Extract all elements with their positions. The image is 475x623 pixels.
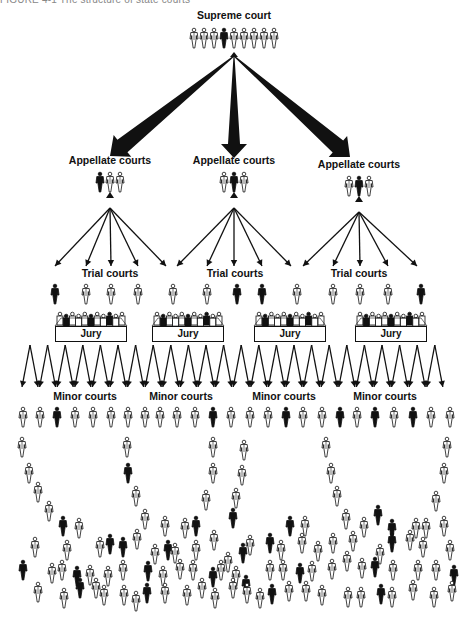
minor-judge-icon [336,407,344,427]
trial-court-label-3: Trial courts [331,267,388,279]
citizen-icon [432,560,440,580]
supreme-justice-icon [250,28,258,48]
minor-judge-icon [227,407,235,427]
citizen-icon [31,537,39,557]
citizen-icon [266,533,274,553]
appellate-court-label-2: Appellate courts [193,154,275,166]
citizen-icon [342,509,350,529]
minor-judge-icon [353,407,361,427]
citizen-icon [151,544,159,564]
trial-judge-icon [233,284,241,304]
citizen-icon [286,516,294,536]
citizen-icon [388,532,396,552]
citizen-icon [92,578,100,598]
citizen-icon [279,560,287,580]
citizen-icon [104,566,112,586]
citizen-icon [344,587,352,607]
trial-judge-icon [384,284,392,304]
citizen-icon [141,509,149,529]
citizen-icon [285,581,293,601]
citizen-icon [143,583,151,603]
jury-crowd-icon [355,312,427,327]
minor-judge-icon [246,407,254,427]
citizen-icon [106,534,114,554]
citizen-icon [443,437,451,457]
minor-judge-icon [124,407,132,427]
citizen-icon [96,537,104,557]
minor-judge-icon [107,407,115,427]
citizen-icon [189,560,197,580]
appellate-judge-icon [96,172,104,192]
diagram-canvas [0,0,475,623]
minor-judge-icon [209,407,217,427]
trial-judge-icon [293,284,301,304]
supreme-justice-icon [240,28,248,48]
minor-judge-icon [282,407,290,427]
citizen-icon [119,560,127,580]
minor-court-label-1: Minor courts [53,390,117,402]
citizen-icon [371,557,379,577]
citizen-icon [181,518,189,538]
trial-judge-icon [258,284,266,304]
trial-court-label-2: Trial courts [207,267,264,279]
citizen-icon [124,463,132,483]
citizen-icon [192,540,200,560]
trial-judge-icon [134,284,142,304]
citizen-icon [432,491,440,511]
citizen-icon [327,463,335,483]
jury-box-3: Jury [254,326,326,342]
citizen-icon [374,505,382,525]
trial-judge-icon [169,284,177,304]
jury-box-2: Jury [152,326,224,342]
minor-judge-icon [141,407,149,427]
citizen-icon [302,581,310,601]
minor-judge-icon [409,407,417,427]
trial-judge-icon [329,284,337,304]
citizen-icon [232,488,240,508]
minor-judge-icon [390,407,398,427]
citizen-icon [202,490,210,510]
supreme-justice-icon [190,28,198,48]
appellate-judge-icon [345,176,353,196]
citizen-icon [34,482,42,502]
citizen-icon [224,552,232,572]
trial-judge-icon [356,284,364,304]
citizen-icon [277,540,285,560]
citizen-icon [358,558,366,578]
citizen-icon [19,560,27,580]
jury-crowd-icon [254,312,326,327]
appellate-judge-icon [116,172,124,192]
citizen-icon [229,508,237,528]
supreme-justice-icon [270,28,278,48]
citizen-icon [198,578,206,598]
citizen-icon [440,463,448,483]
citizen-icon [171,543,179,563]
citizen-icon [120,585,128,605]
citizen-icon [25,463,33,483]
citizen-icon [192,516,200,536]
supreme-justice-icon [220,28,228,48]
appellate-judge-icon [355,176,363,196]
citizen-icon [314,541,322,561]
minor-judge-icon [19,407,27,427]
citizen-icon [86,565,94,585]
big-arrow-icon [221,56,247,158]
appellate-court-label-1: Appellate courts [69,154,151,166]
minor-judge-icon [191,407,199,427]
appellate-court-label-3: Appellate courts [318,158,400,170]
minor-court-label-4: Minor courts [353,390,417,402]
trial-judge-icon [417,284,425,304]
citizen-icon [333,486,341,506]
citizen-icon [349,531,357,551]
citizen-icon [209,463,217,483]
minor-judge-icon [427,407,435,427]
trial-judge-icon [107,284,115,304]
citizen-icon [256,588,264,608]
trial-court-label-1: Trial courts [82,267,139,279]
citizen-icon [132,486,140,506]
trial-judge-icon [203,284,211,304]
citizen-icon [238,465,246,485]
citizen-icon [34,582,42,602]
citizen-icon [409,580,417,600]
citizen-icon [119,537,127,557]
